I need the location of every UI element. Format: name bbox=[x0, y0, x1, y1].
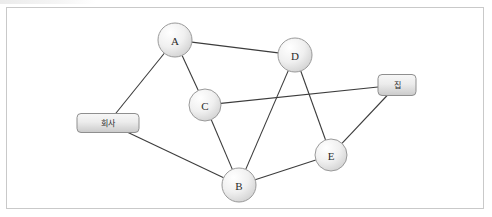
network-graph: ADCEB회사집 bbox=[0, 0, 492, 217]
edge-A-C bbox=[182, 55, 198, 90]
node-label-company: 회사 bbox=[101, 119, 116, 128]
node-label-A: A bbox=[171, 35, 179, 47]
node-A[interactable]: A bbox=[158, 23, 192, 57]
diagram-canvas: ADCEB회사집 bbox=[0, 0, 492, 217]
edge-A-company bbox=[116, 53, 165, 113]
node-label-home: 집 bbox=[394, 80, 401, 90]
node-D[interactable]: D bbox=[278, 38, 312, 72]
node-label-B: B bbox=[235, 180, 242, 192]
node-home[interactable]: 집 bbox=[378, 75, 416, 96]
edge-E-home bbox=[342, 96, 387, 144]
edge-C-home bbox=[221, 87, 378, 103]
edge-C-B bbox=[211, 120, 232, 170]
node-label-C: C bbox=[201, 100, 208, 112]
edge-A-D bbox=[192, 42, 278, 53]
node-label-E: E bbox=[328, 150, 335, 162]
node-E[interactable]: E bbox=[315, 139, 347, 171]
edge-B-company bbox=[128, 133, 224, 178]
nodes-layer: ADCEB회사집 bbox=[77, 23, 416, 202]
edge-D-B bbox=[246, 71, 289, 170]
node-label-D: D bbox=[291, 50, 299, 62]
node-B[interactable]: B bbox=[222, 168, 256, 202]
node-C[interactable]: C bbox=[189, 89, 221, 121]
edge-E-B bbox=[255, 160, 316, 180]
node-company[interactable]: 회사 bbox=[77, 114, 139, 133]
edge-D-E bbox=[301, 71, 326, 140]
